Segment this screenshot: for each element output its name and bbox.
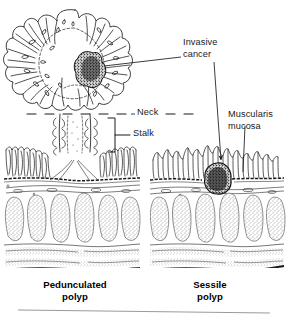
canvas-background <box>0 0 287 321</box>
invasive-cancer-mass-pedunculated <box>74 52 105 88</box>
figure-illustration <box>0 0 287 321</box>
polyp-figure: Invasive cancer Neck Stalk Muscularis mu… <box>0 0 287 321</box>
